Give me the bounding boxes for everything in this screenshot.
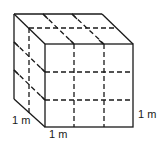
label-right-edge: 1 m (138, 108, 156, 120)
label-left-edge: 1 m (12, 114, 30, 126)
cube (14, 14, 133, 127)
label-bottom-edge: 1 m (49, 128, 67, 140)
top-right-depth-edge (102, 14, 133, 44)
cube-diagram: 1 m 1 m 1 m (0, 0, 160, 147)
front-face (45, 44, 133, 127)
